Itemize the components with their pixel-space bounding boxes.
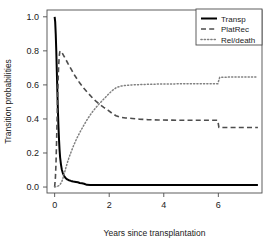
- x-axis-title: Years since transplantation: [104, 228, 206, 238]
- y-tick-label: 0.8: [26, 46, 39, 56]
- x-tick-label: 2: [107, 200, 112, 210]
- legend-label-transp: Transp: [221, 15, 246, 24]
- y-tick-label: 1.0: [26, 12, 39, 22]
- x-tick-label: 4: [161, 200, 166, 210]
- y-tick-label: 0.2: [26, 148, 39, 158]
- series-line-platrec: [55, 51, 258, 187]
- legend-label-platrec: PlatRec: [221, 25, 249, 34]
- legend-label-rel-death: Rel/death: [221, 36, 255, 45]
- y-tick-label: 0.0: [26, 182, 39, 192]
- y-tick-label: 0.6: [26, 80, 39, 90]
- y-axis-title: Transition probabilities: [3, 59, 13, 144]
- x-tick-label: 0: [52, 200, 57, 210]
- series-line-rel-death: [55, 77, 258, 187]
- x-tick-label: 6: [216, 200, 221, 210]
- transition-probabilities-figure: 02460.00.20.40.60.81.0Years since transp…: [0, 0, 274, 248]
- chart-canvas: 02460.00.20.40.60.81.0Years since transp…: [0, 0, 274, 248]
- y-tick-label: 0.4: [26, 114, 39, 124]
